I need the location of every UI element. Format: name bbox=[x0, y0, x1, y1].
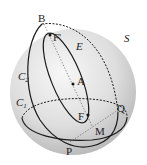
label-q: Q bbox=[117, 102, 125, 114]
sphere-diagram: B F' E S C2 A C1 F Q M P bbox=[0, 0, 147, 165]
label-f: F bbox=[78, 110, 84, 122]
point-f-prime bbox=[49, 34, 52, 37]
label-f-prime: F' bbox=[53, 31, 61, 43]
label-s: S bbox=[124, 32, 130, 44]
point-a bbox=[72, 83, 75, 86]
point-f bbox=[87, 114, 90, 117]
label-a: A bbox=[77, 75, 85, 87]
label-e: E bbox=[75, 40, 83, 52]
label-m: M bbox=[95, 125, 105, 137]
label-p: P bbox=[66, 145, 72, 157]
label-b: B bbox=[38, 12, 45, 24]
sphere bbox=[10, 29, 136, 155]
